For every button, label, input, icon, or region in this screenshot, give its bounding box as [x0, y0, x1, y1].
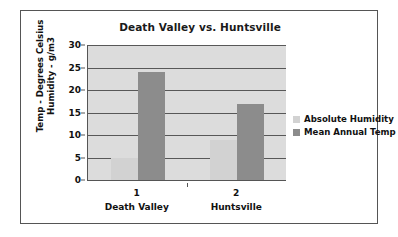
legend-item[interactable]: Mean Annual Temp — [293, 127, 396, 137]
chart-legend: Absolute HumidityMean Annual Temp — [293, 114, 396, 140]
y-tick-label: 10 — [68, 130, 81, 140]
legend-label: Mean Annual Temp — [304, 127, 396, 137]
bar[interactable] — [111, 158, 138, 181]
x-axis-category-name: Death Valley — [87, 201, 187, 215]
chart-frame: Death Valley vs. Huntsville Temp - Degre… — [20, 10, 378, 224]
y-tick-mark — [81, 180, 85, 181]
y-axis-title-line-2: Humidity - g/m3 — [46, 37, 57, 115]
legend-swatch — [293, 116, 300, 123]
x-axis-category-number: 2 — [187, 187, 287, 201]
plot-wrapper: 051015202530 — [65, 45, 286, 185]
y-tick-label: 20 — [68, 85, 81, 95]
y-axis-title-line-1: Temp - Degrees Celsius — [35, 20, 46, 133]
x-axis-category: 2Huntsville — [187, 187, 287, 215]
x-axis-category-number: 1 — [87, 187, 187, 201]
y-tick-mark — [81, 157, 85, 158]
bar-series-container — [88, 45, 286, 180]
y-tick-mark — [81, 45, 85, 46]
x-axis-category: 1Death Valley — [87, 187, 187, 215]
y-tick-label: 25 — [68, 63, 81, 73]
x-axis-category-name: Huntsville — [187, 201, 287, 215]
legend-swatch — [293, 129, 300, 136]
y-tick-mark — [81, 135, 85, 136]
y-tick-mark — [81, 90, 85, 91]
bar-group — [187, 45, 286, 180]
y-axis-title: Temp - Degrees Celsius Humidity - g/m3 — [33, 5, 59, 147]
plot-area — [87, 45, 286, 181]
legend-item[interactable]: Absolute Humidity — [293, 114, 396, 124]
y-tick-label: 15 — [68, 108, 81, 118]
legend-label: Absolute Humidity — [304, 114, 394, 124]
category-separator — [187, 183, 188, 187]
y-tick-mark — [81, 67, 85, 68]
bar[interactable] — [237, 104, 264, 181]
y-tick-mark — [81, 112, 85, 113]
x-axis-categories: 1Death Valley2Huntsville — [87, 187, 286, 215]
bar[interactable] — [138, 72, 165, 180]
chart-title: Death Valley vs. Huntsville — [21, 21, 379, 33]
bar-group — [88, 45, 187, 180]
y-axis-tick-labels: 051015202530 — [65, 45, 85, 185]
bar[interactable] — [210, 140, 237, 181]
y-tick-label: 30 — [68, 40, 81, 50]
